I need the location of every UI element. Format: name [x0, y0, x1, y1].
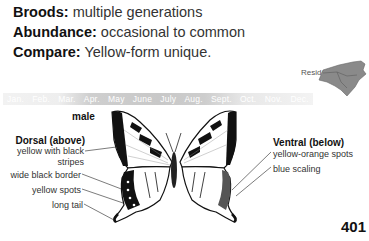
page-number: 401 — [341, 218, 366, 235]
tiger-swallowtail-illustration — [0, 0, 369, 241]
